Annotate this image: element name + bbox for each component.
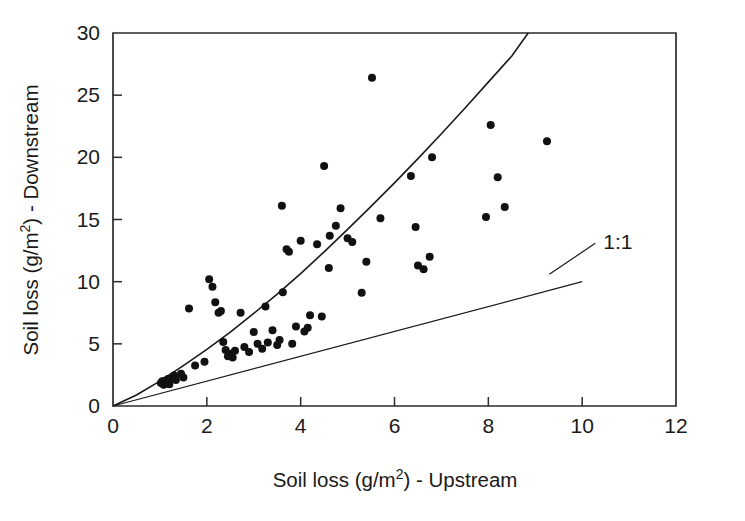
x-tick-label: 12 (664, 414, 687, 437)
data-point (219, 338, 227, 346)
data-point (297, 237, 305, 245)
data-point (191, 362, 199, 370)
data-point (487, 121, 495, 129)
data-point (288, 340, 296, 348)
x-tick-label: 2 (201, 414, 213, 437)
data-point (211, 298, 219, 306)
data-point (306, 311, 314, 319)
x-axis-tick-labels: 024681012 (107, 414, 688, 437)
data-point (264, 339, 272, 347)
data-point (205, 275, 213, 283)
x-axis-title-post: ) - Upstream (403, 468, 517, 491)
y-axis-title-post: ) - Downstream (19, 85, 42, 225)
data-point (269, 326, 277, 334)
data-point (376, 214, 384, 222)
data-point (304, 324, 312, 332)
one-to-one-line (113, 282, 582, 406)
data-point (494, 173, 502, 181)
data-point (358, 289, 366, 297)
y-axis-title-pre: Soil loss (g/m (19, 232, 42, 355)
x-tick-label: 6 (389, 414, 401, 437)
y-tick-label: 5 (88, 332, 100, 355)
data-point (325, 264, 333, 272)
data-point (258, 345, 266, 353)
data-point (428, 153, 436, 161)
y-axis-tick-labels: 051015202530 (77, 21, 100, 417)
x-tick-label: 8 (482, 414, 494, 437)
y-tick-label: 10 (77, 270, 100, 293)
data-point (318, 312, 326, 320)
annotation-leader-line (549, 243, 595, 274)
data-point (185, 304, 193, 312)
y-tick-label: 25 (77, 83, 100, 106)
data-point (412, 223, 420, 231)
data-point (482, 213, 490, 221)
figure-container: 024681012 051015202530 1:1 Soil loss (g/… (0, 0, 745, 521)
data-point (231, 347, 239, 355)
data-point (217, 307, 225, 315)
y-tick-label: 30 (77, 21, 100, 44)
x-tick-label: 10 (570, 414, 593, 437)
data-point (543, 137, 551, 145)
x-tick-label: 4 (295, 414, 307, 437)
data-point (279, 288, 287, 296)
data-point (250, 328, 258, 336)
fitted-curve (113, 33, 528, 406)
data-point (165, 380, 173, 388)
data-point (276, 336, 284, 344)
data-point (320, 162, 328, 170)
data-point (332, 222, 340, 230)
data-point (326, 232, 334, 240)
x-axis-ticks (207, 397, 582, 406)
data-point (420, 265, 428, 273)
data-point (362, 258, 370, 266)
data-point (407, 172, 415, 180)
data-point (285, 248, 293, 256)
x-axis-title-sup: 2 (396, 466, 404, 482)
data-point (278, 202, 286, 210)
x-tick-label: 0 (107, 414, 119, 437)
data-point (200, 358, 208, 366)
data-point (172, 376, 180, 384)
scatter-plot: 024681012 051015202530 1:1 Soil loss (g/… (0, 0, 745, 521)
data-point (237, 309, 245, 317)
axis-frame (113, 33, 676, 406)
data-point (179, 373, 187, 381)
data-point (229, 354, 237, 362)
y-tick-label: 0 (88, 394, 100, 417)
data-point (292, 322, 300, 330)
y-axis-ticks (113, 95, 122, 344)
plot-axes (113, 33, 676, 406)
data-point (245, 348, 253, 356)
data-point (337, 204, 345, 212)
y-axis-title: Soil loss (g/m2) - Downstream (17, 85, 42, 356)
data-point (426, 253, 434, 261)
data-point (261, 303, 269, 311)
y-tick-label: 15 (77, 208, 100, 231)
data-point (501, 203, 509, 211)
data-point (368, 74, 376, 82)
x-axis-title-pre: Soil loss (g/m (273, 468, 396, 491)
x-axis-title: Soil loss (g/m2) - Upstream (273, 466, 518, 491)
one-to-one-label: 1:1 (603, 230, 632, 253)
y-tick-label: 20 (77, 145, 100, 168)
y-axis-title-sup: 2 (17, 224, 33, 232)
data-point (313, 240, 321, 248)
data-point (208, 283, 216, 291)
data-point (348, 238, 356, 246)
